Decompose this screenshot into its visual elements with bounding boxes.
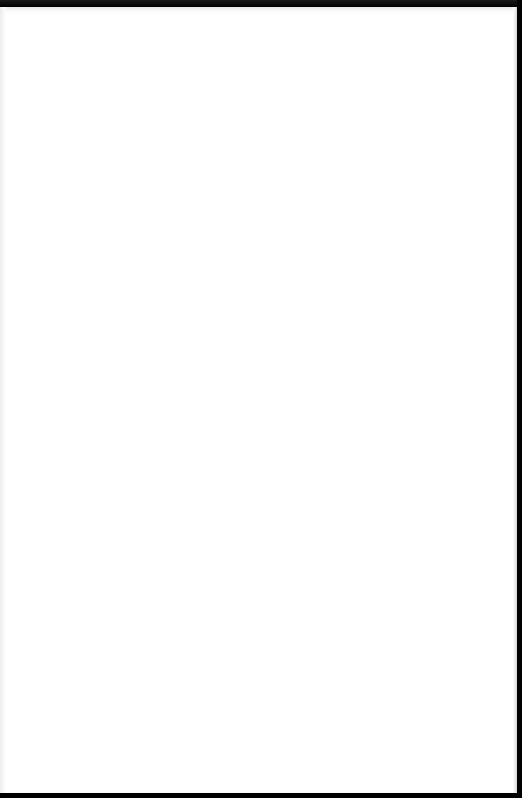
page-content bbox=[40, 47, 477, 753]
scanned-page-image bbox=[0, 0, 522, 798]
scan-border-right bbox=[517, 0, 522, 798]
scan-border-bottom bbox=[0, 793, 522, 798]
blank-paper-page bbox=[0, 7, 517, 793]
scan-border-top bbox=[0, 0, 522, 7]
